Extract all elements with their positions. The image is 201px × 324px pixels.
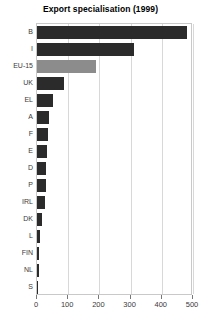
- bar-series: [37, 24, 191, 294]
- tick-0: [36, 295, 37, 299]
- x-label-300: 300: [115, 300, 145, 310]
- x-label-0: 0: [21, 300, 51, 310]
- bar-b: [37, 26, 187, 39]
- y-label-d: D: [0, 163, 33, 172]
- bar-s: [37, 281, 38, 294]
- bar-irl: [37, 196, 45, 209]
- bar-e: [37, 145, 47, 158]
- x-label-500: 500: [177, 300, 201, 310]
- bar-eu-15: [37, 60, 96, 73]
- tick-200: [98, 295, 99, 299]
- x-label-100: 100: [52, 300, 82, 310]
- x-axis-tick-labels: 0100200300400500: [0, 300, 201, 314]
- y-label-b: B: [0, 27, 33, 36]
- bar-p: [37, 179, 46, 192]
- bar-nl: [37, 264, 39, 277]
- x-label-400: 400: [146, 300, 176, 310]
- y-label-uk: UK: [0, 78, 33, 87]
- tick-100: [67, 295, 68, 299]
- bar-i: [37, 43, 134, 56]
- y-label-a: A: [0, 112, 33, 121]
- bar-fin: [37, 247, 39, 260]
- y-label-nl: NL: [0, 265, 33, 274]
- y-label-l: L: [0, 231, 33, 240]
- y-label-eu-15: EU-15: [0, 61, 33, 70]
- y-label-irl: IRL: [0, 197, 33, 206]
- tick-500: [192, 295, 193, 299]
- y-label-i: I: [0, 44, 33, 53]
- y-label-e: E: [0, 146, 33, 155]
- chart-container: Export specialisation (1999) BIEU-15UKEL…: [0, 0, 201, 324]
- bar-d: [37, 162, 46, 175]
- y-label-fin: FIN: [0, 248, 33, 257]
- tick-400: [161, 295, 162, 299]
- plot-area: [36, 23, 192, 295]
- y-label-p: P: [0, 180, 33, 189]
- y-label-s: S: [0, 282, 33, 291]
- y-axis-category-labels: BIEU-15UKELAFEDPIRLDKLFINNLS: [0, 23, 33, 295]
- bar-el: [37, 94, 53, 107]
- y-label-f: F: [0, 129, 33, 138]
- chart-title: Export specialisation (1999): [0, 4, 201, 15]
- tick-300: [130, 295, 131, 299]
- bar-f: [37, 128, 48, 141]
- y-label-dk: DK: [0, 214, 33, 223]
- bar-dk: [37, 213, 42, 226]
- bar-uk: [37, 77, 64, 90]
- bar-l: [37, 230, 40, 243]
- x-label-200: 200: [83, 300, 113, 310]
- bar-a: [37, 111, 49, 124]
- gridline-500: [193, 24, 194, 294]
- y-label-el: EL: [0, 95, 33, 104]
